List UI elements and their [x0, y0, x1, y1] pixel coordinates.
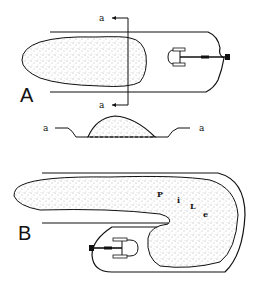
svg-text:P: P: [157, 189, 163, 199]
panel-a: a a A: [20, 13, 230, 110]
section-label-left: a: [43, 123, 49, 133]
panel-label-b: B: [18, 222, 31, 244]
section-label-top: a: [99, 13, 105, 23]
section-label-bottom: a: [99, 100, 105, 110]
svg-text:e: e: [203, 209, 208, 219]
cross-section: a a: [43, 116, 205, 137]
panel-label-a: A: [20, 84, 34, 106]
svg-text:L: L: [190, 201, 196, 211]
panel-b: P i L e B: [14, 173, 245, 272]
svg-text:i: i: [177, 195, 180, 205]
bulldozer-icon: [168, 48, 230, 66]
diagram-canvas: a a A a a P i L e: [0, 0, 259, 286]
section-label-right: a: [199, 123, 205, 133]
mound-profile: [88, 116, 155, 137]
